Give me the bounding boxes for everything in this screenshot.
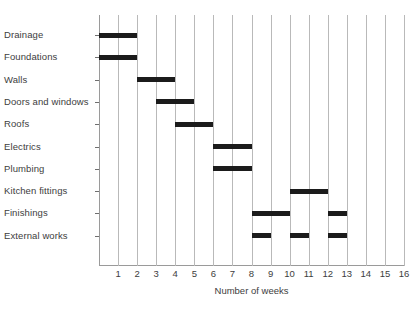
gridline-week-10 — [290, 15, 291, 266]
gridline-week-9 — [271, 15, 272, 266]
gantt-bar — [99, 33, 137, 38]
x-tick-label: 7 — [222, 268, 242, 280]
task-label: Roofs — [4, 118, 94, 129]
y-axis-tick — [95, 236, 99, 237]
gantt-bar — [137, 77, 175, 82]
x-axis-tick-labels: 12345678910111213141516 — [99, 268, 404, 282]
gantt-bar — [175, 122, 213, 127]
x-tick-label: 12 — [318, 268, 338, 280]
y-axis-tick — [95, 213, 99, 214]
x-tick-label: 6 — [203, 268, 223, 280]
x-tick-label: 5 — [184, 268, 204, 280]
x-tick-label: 15 — [375, 268, 395, 280]
gridline-week-16 — [404, 15, 405, 266]
y-axis-tick — [95, 102, 99, 103]
x-tick-label: 14 — [356, 268, 376, 280]
gantt-bar — [290, 233, 309, 238]
gridline-week-1 — [118, 15, 119, 266]
gridline-week-7 — [232, 15, 233, 266]
gantt-bar — [290, 189, 328, 194]
gantt-bar — [252, 211, 290, 216]
x-tick-label: 9 — [261, 268, 281, 280]
task-label: Electrics — [4, 141, 94, 152]
gridline-week-8 — [252, 15, 253, 266]
x-tick-label: 1 — [108, 268, 128, 280]
x-tick-label: 16 — [394, 268, 414, 280]
gridline-week-11 — [309, 15, 310, 266]
gantt-bar — [156, 99, 194, 104]
gridline-week-15 — [385, 15, 386, 266]
y-axis-tick — [95, 80, 99, 81]
gantt-bar — [328, 233, 347, 238]
x-tick-label: 13 — [337, 268, 357, 280]
task-label: Doors and windows — [4, 96, 94, 107]
gridline-week-2 — [137, 15, 138, 266]
gridline-week-3 — [156, 15, 157, 266]
task-label: Walls — [4, 74, 94, 85]
task-label: Finishings — [4, 207, 94, 218]
x-tick-label: 2 — [127, 268, 147, 280]
gantt-bar — [99, 55, 137, 60]
gantt-bar — [328, 211, 347, 216]
y-axis-line — [99, 15, 100, 266]
gantt-bar — [213, 166, 251, 171]
gridline-week-12 — [328, 15, 329, 266]
x-tick-label: 4 — [165, 268, 185, 280]
task-label: Plumbing — [4, 163, 94, 174]
x-tick-label: 11 — [299, 268, 319, 280]
y-axis-tick — [95, 169, 99, 170]
task-label: External works — [4, 230, 94, 241]
task-label: Drainage — [4, 29, 94, 40]
y-axis-tick — [95, 147, 99, 148]
gridline-week-4 — [175, 15, 176, 266]
y-axis-tick — [95, 124, 99, 125]
x-tick-label: 10 — [280, 268, 300, 280]
x-tick-label: 3 — [146, 268, 166, 280]
task-label-column: DrainageFoundationsWallsDoors and window… — [0, 0, 96, 322]
task-label: Kitchen fittings — [4, 185, 94, 196]
task-label: Foundations — [4, 51, 94, 62]
gantt-chart: DrainageFoundationsWallsDoors and window… — [0, 0, 420, 322]
gantt-bar — [213, 144, 251, 149]
gantt-bar — [252, 233, 271, 238]
x-tick-label: 8 — [242, 268, 262, 280]
plot-area — [99, 15, 404, 266]
gridline-week-6 — [213, 15, 214, 266]
y-axis-tick — [95, 191, 99, 192]
gridline-week-5 — [194, 15, 195, 266]
gridline-week-14 — [366, 15, 367, 266]
x-axis-title: Number of weeks — [99, 285, 404, 296]
gridline-week-13 — [347, 15, 348, 266]
